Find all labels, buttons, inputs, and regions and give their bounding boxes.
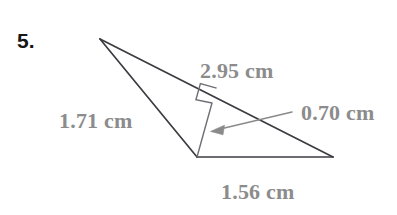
geometry-problem-figure: 5. 2.95 cm 1.71 cm 0.70 cm 1.56 cm [0, 0, 397, 215]
measure-label-left-side: 1.71 cm [59, 110, 133, 132]
altitude-segment [197, 103, 212, 157]
measure-label-height: 0.70 cm [301, 102, 375, 124]
triangle-edge-left [100, 39, 197, 157]
measure-label-base: 1.56 cm [221, 181, 295, 203]
triangle-edge-hypotenuse [100, 39, 333, 157]
measure-label-hypotenuse: 2.95 cm [200, 60, 274, 82]
